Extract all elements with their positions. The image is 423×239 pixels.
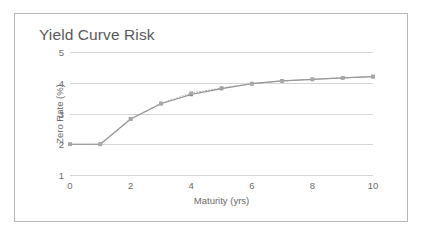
series-plot <box>70 52 373 175</box>
data-point-marker <box>371 75 375 79</box>
data-point-marker <box>159 102 163 106</box>
y-axis-title: Zero Rate (%) <box>54 84 65 144</box>
x-tick-label: 4 <box>189 180 194 191</box>
data-point-marker <box>280 79 284 83</box>
x-tick-label: 8 <box>310 180 315 191</box>
x-tick-label: 10 <box>368 180 379 191</box>
x-axis-title: Maturity (yrs) <box>194 195 249 206</box>
gridline <box>70 175 373 176</box>
data-point-marker <box>220 86 224 90</box>
y-tick-label: 5 <box>59 47 64 58</box>
series-1 <box>68 75 375 146</box>
data-point-marker <box>341 76 345 80</box>
data-point-marker <box>250 82 254 86</box>
x-tick-label: 6 <box>249 180 254 191</box>
y-tick-label: 1 <box>59 170 64 181</box>
series-2 <box>68 75 375 146</box>
chart-title: Yield Curve Risk <box>39 26 155 44</box>
data-point-marker <box>311 78 315 82</box>
x-tick-label: 2 <box>128 180 133 191</box>
data-point-marker <box>68 142 72 146</box>
data-point-marker <box>129 117 133 121</box>
plot-area: 12345 0246810 Zero Rate (%) Maturity (yr… <box>70 52 373 175</box>
x-tick-label: 0 <box>67 180 72 191</box>
data-point-marker <box>99 142 103 146</box>
chart-frame: Yield Curve Risk 12345 0246810 Zero Rate… <box>14 13 408 222</box>
data-point-marker <box>189 91 193 95</box>
